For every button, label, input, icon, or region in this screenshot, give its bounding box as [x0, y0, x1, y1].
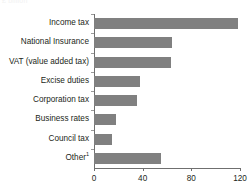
category-label: Other1	[65, 152, 89, 163]
bar-row: VAT (value added tax)	[94, 53, 240, 72]
x-axis-tick-label: 80	[187, 174, 196, 184]
x-axis-tick	[94, 168, 95, 171]
bar-row: Income tax	[94, 14, 240, 33]
plot-area: Income taxNational InsuranceVAT (value a…	[94, 14, 240, 168]
x-axis-tick	[191, 168, 192, 171]
bar	[94, 153, 161, 164]
y-axis-tick	[91, 53, 94, 54]
y-axis-tick	[91, 91, 94, 92]
y-axis-tick	[91, 33, 94, 34]
bar	[94, 76, 140, 87]
category-label: Excise duties	[41, 75, 89, 86]
bar-row: National Insurance	[94, 33, 240, 52]
y-axis-tick	[91, 72, 94, 73]
bar	[94, 95, 137, 106]
category-label: Corporation tax	[33, 94, 89, 105]
bar-row: Excise duties	[94, 72, 240, 91]
bar-chart-figure: £ billion Income taxNational InsuranceVA…	[0, 0, 251, 191]
y-axis-tick	[91, 149, 94, 150]
category-label: Business rates	[35, 113, 89, 124]
category-label: Council tax	[48, 133, 89, 144]
y-axis-tick	[91, 14, 94, 15]
y-axis-tick	[91, 110, 94, 111]
x-axis-tick	[143, 168, 144, 171]
x-axis-tick	[240, 168, 241, 171]
x-axis-tick-label: 0	[92, 174, 97, 184]
bar	[94, 18, 238, 29]
x-axis-tick-label: 40	[138, 174, 147, 184]
bar-row: Corporation tax	[94, 91, 240, 110]
x-axis-tick-label: 120	[233, 174, 247, 184]
bar	[94, 37, 172, 48]
bar	[94, 57, 171, 68]
bar	[94, 114, 116, 125]
category-label: National Insurance	[21, 36, 89, 47]
bar-row: Other1	[94, 149, 240, 168]
bar-row: Council tax	[94, 130, 240, 149]
category-label: VAT (value added tax)	[9, 56, 89, 67]
x-axis-line	[94, 168, 240, 169]
y-axis-tick	[91, 130, 94, 131]
figure-caption-remnant: £ billion	[2, 0, 28, 5]
bar-row: Business rates	[94, 110, 240, 129]
bar	[94, 134, 112, 145]
category-label: Income tax	[49, 17, 89, 28]
footnote-marker: 1	[86, 151, 89, 157]
